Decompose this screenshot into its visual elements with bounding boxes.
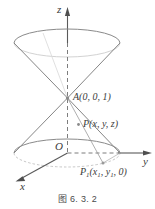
x-axis-line — [22, 153, 68, 178]
p-point-marker — [77, 123, 80, 126]
p1-label-rest3: , 0) — [114, 166, 127, 177]
apex-point-marker — [66, 96, 69, 99]
figure-container: z y x O A(0, 0, 1) P(x, y, z) P1(x1, y1,… — [0, 0, 155, 209]
top-ellipse-back-arc — [14, 43, 120, 57]
figure-caption: 图 6. 3. 2 — [0, 192, 155, 205]
z-axis-label: z — [57, 4, 61, 15]
bottom-ellipse-front-arc — [14, 139, 120, 153]
z-axis-arrowhead — [65, 7, 70, 16]
cone-diagram-svg — [0, 0, 155, 209]
apex-point-label: A(0, 0, 1) — [73, 92, 111, 102]
bottom-ellipse-back-arc — [14, 153, 120, 167]
cone-upper-left-generatrix — [14, 43, 68, 98]
cone-upper-back-generatrix — [43, 33, 68, 98]
y-axis-label: y — [143, 156, 148, 167]
p1-point-marker — [102, 162, 105, 165]
p-point-label: P(x, y, z) — [83, 119, 118, 129]
p1-label-rest2: , y — [101, 166, 110, 177]
p1-point-label: P1(x1, y1, 0) — [80, 167, 127, 178]
p1-base-connector — [103, 153, 120, 163]
origin-label: O — [55, 141, 63, 152]
x-axis-label: x — [20, 181, 25, 192]
cone-upper-right-generatrix — [68, 43, 121, 98]
